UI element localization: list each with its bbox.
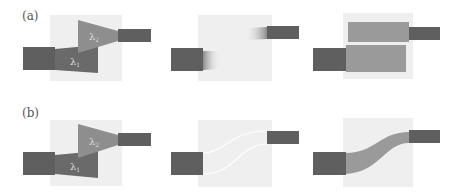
design-region xyxy=(198,15,272,81)
output-taper xyxy=(245,27,267,40)
panel-a3-filled-blocks xyxy=(313,13,440,79)
input-waveguide xyxy=(171,152,203,175)
row-b: (b) λ2 λ1 xyxy=(22,106,440,187)
row-a: (a) λ2 λ1 xyxy=(22,9,440,81)
output-waveguide xyxy=(267,26,299,39)
input-taper xyxy=(203,51,220,70)
lambda1-region xyxy=(55,45,98,73)
input-waveguide xyxy=(23,47,55,70)
input-waveguide xyxy=(313,48,346,71)
output-waveguide xyxy=(409,27,440,40)
input-waveguide xyxy=(313,152,346,175)
design-region xyxy=(198,120,272,187)
panel-a2-empty-region xyxy=(171,15,299,81)
lambda1-region xyxy=(55,151,98,178)
output-waveguide xyxy=(118,133,151,146)
output-waveguide xyxy=(118,29,151,42)
panel-b2-sbend-outline xyxy=(171,120,299,187)
input-waveguide xyxy=(171,48,203,71)
panel-a1-demultiplexer: λ2 λ1 xyxy=(23,15,151,81)
output-waveguide xyxy=(409,130,440,143)
panel-b1-demultiplexer: λ2 λ1 xyxy=(23,120,151,186)
row-b-label: (b) xyxy=(22,106,39,120)
input-waveguide xyxy=(23,152,55,175)
row-a-label: (a) xyxy=(22,9,39,23)
panel-b3-sbend-filled xyxy=(313,118,440,187)
lower-block xyxy=(346,45,406,72)
output-waveguide xyxy=(267,131,299,144)
diagram-canvas: (a) λ2 λ1 xyxy=(0,0,463,193)
upper-block xyxy=(348,22,409,42)
